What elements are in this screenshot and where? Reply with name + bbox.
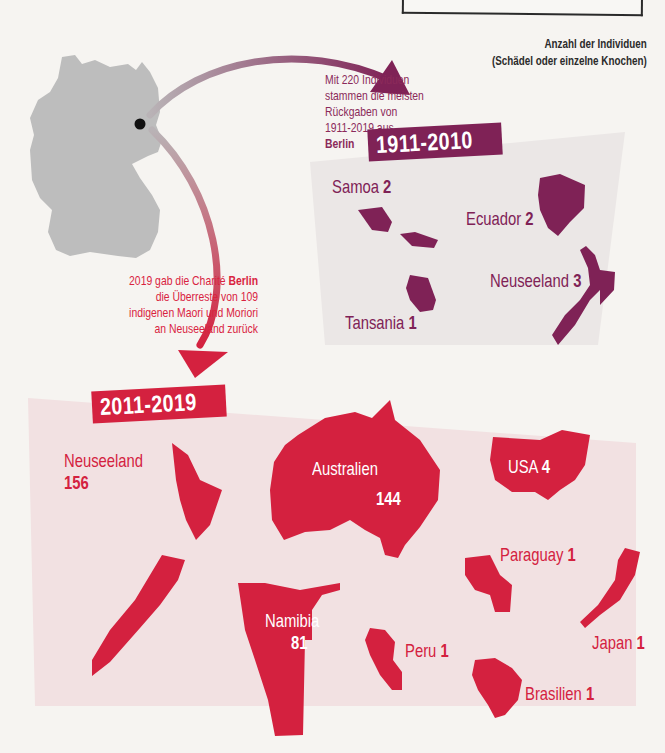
tansania-shape [406, 275, 436, 312]
label-namibia-new: Namibia81 [265, 610, 319, 654]
note-line: indigenen Maori und Moriori [86, 305, 258, 321]
label-peru-new: Peru 1 [405, 640, 449, 662]
label-neuseeland-old: Neuseeland 3 [490, 270, 581, 292]
arrow-head-2011 [178, 350, 228, 378]
label-usa-new: USA 4 [508, 456, 550, 478]
note-bold: Berlin [229, 273, 258, 288]
nz-old-shape [552, 246, 615, 345]
label-tansania-old: Tansania 1 [345, 312, 417, 334]
japan-shape [580, 548, 640, 628]
label-japan-new: Japan 1 [592, 632, 645, 654]
label-neuseeland-new: Neuseeland156 [64, 450, 143, 494]
note-line: stammen die meisten [325, 88, 424, 104]
label-samoa-old: Samoa 2 [332, 176, 391, 198]
berlin-dot [135, 119, 146, 130]
label-australien-new: Australien [312, 458, 378, 480]
legend-line-1: Anzahl der Individuen [492, 36, 647, 53]
note-bold: Berlin [325, 136, 354, 151]
value-australien-new: 144 [376, 488, 401, 510]
charite-annotation: 2019 gab die Charité Berlin die Überrest… [86, 273, 258, 337]
legend-line-2: (Schädel oder einzelne Knochen) [492, 53, 647, 70]
samoa-shape-1 [358, 207, 392, 232]
ecuador-shape [538, 174, 585, 236]
peru-shape [365, 628, 402, 690]
germany-map [30, 55, 162, 258]
header-box [402, 0, 643, 16]
label-paraguay-new: Paraguay 1 [500, 544, 576, 566]
note-line: Rückgaben von [325, 104, 424, 120]
brasilien-shape [472, 658, 522, 718]
note-line: an Neuseeland zurück [86, 321, 258, 337]
period-label-1911-2010: 1911-2010 [367, 123, 502, 162]
note-line: 2019 gab die Charité [129, 273, 228, 288]
legend: Anzahl der Individuen (Schädel oder einz… [492, 36, 647, 70]
namibia-shape [238, 583, 340, 736]
note-line: Mit 220 Individuen [325, 72, 424, 88]
label-ecuador-old: Ecuador 2 [466, 208, 534, 230]
period-label-2011-2019: 2011-2019 [91, 385, 226, 424]
note-line: die Überreste von 109 [86, 289, 258, 305]
label-brasilien-new: Brasilien 1 [525, 683, 594, 705]
samoa-shape-2 [400, 232, 438, 248]
